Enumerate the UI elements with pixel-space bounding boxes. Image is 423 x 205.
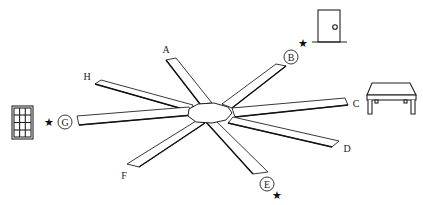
label-h: H [83,71,90,82]
arm-g [77,107,193,125]
label-b-group: B ★ [284,37,308,64]
table-icon [367,83,416,114]
label-g-group: G ★ [44,115,72,129]
arm-c [232,98,348,117]
label-b: B [288,52,295,63]
label-f: F [121,170,127,181]
label-e: E [264,179,270,190]
radial-maze-diagram: A B ★ C D E ★ F G ★ H [0,0,423,205]
arm-h [95,80,193,111]
label-d: D [343,143,350,154]
window-icon [12,106,33,139]
label-e-group: E ★ [260,177,282,202]
door-icon [312,10,347,42]
star-icon-g: ★ [44,116,54,129]
star-icon-b: ★ [298,37,308,50]
label-c: C [353,98,360,109]
arm-f [127,121,205,167]
star-icon-e: ★ [272,189,282,202]
arm-d [228,117,339,147]
arm-b [222,64,286,108]
label-g: G [61,117,68,128]
label-a: A [162,44,170,55]
arm-a [166,58,212,104]
central-hub [188,103,232,123]
